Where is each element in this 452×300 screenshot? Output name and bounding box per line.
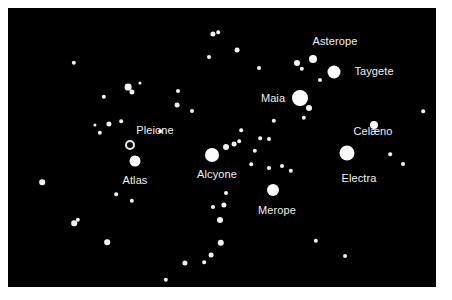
field-star bbox=[104, 239, 110, 245]
star-merope bbox=[267, 184, 279, 196]
field-star bbox=[237, 139, 241, 143]
star-asterope bbox=[309, 55, 317, 63]
sky-field: PleioneAtlasAlcyoneMeropeMaiaTaygeteAste… bbox=[8, 8, 436, 287]
field-star bbox=[211, 205, 215, 209]
field-star bbox=[164, 278, 168, 282]
field-star bbox=[257, 66, 261, 70]
field-star bbox=[302, 116, 306, 120]
field-star bbox=[267, 137, 271, 141]
field-star bbox=[106, 121, 111, 126]
field-star bbox=[190, 109, 194, 113]
star-maia bbox=[292, 90, 308, 106]
star-pleione bbox=[125, 140, 135, 150]
field-star bbox=[258, 136, 262, 140]
field-star bbox=[232, 142, 237, 147]
star-label-atlas: Atlas bbox=[123, 174, 148, 186]
field-star bbox=[388, 152, 392, 156]
field-star bbox=[223, 144, 229, 150]
field-star bbox=[218, 240, 224, 246]
field-star bbox=[102, 95, 106, 99]
field-star bbox=[239, 128, 243, 132]
field-star bbox=[401, 162, 405, 166]
field-star bbox=[207, 55, 211, 59]
field-star bbox=[343, 254, 347, 258]
field-star bbox=[294, 60, 300, 66]
field-star bbox=[235, 48, 240, 53]
star-label-asterope: Asterope bbox=[313, 35, 358, 47]
star-label-taygete: Taygete bbox=[354, 65, 393, 77]
star-alcyone bbox=[205, 148, 219, 162]
field-star bbox=[306, 105, 312, 111]
field-star bbox=[76, 218, 80, 222]
field-star bbox=[300, 67, 304, 71]
field-star bbox=[209, 253, 214, 258]
field-star bbox=[217, 217, 223, 223]
star-atlas bbox=[130, 156, 141, 167]
field-star bbox=[175, 103, 180, 108]
field-star bbox=[318, 78, 322, 82]
field-star bbox=[216, 30, 220, 34]
field-star bbox=[114, 192, 118, 196]
star-chart: PleioneAtlasAlcyoneMeropeMaiaTaygeteAste… bbox=[0, 0, 452, 300]
star-label-alcyone: Alcyone bbox=[197, 168, 237, 180]
star-taygete bbox=[328, 66, 341, 79]
field-star bbox=[224, 191, 228, 195]
star-label-merope: Merope bbox=[258, 204, 296, 216]
star-electra bbox=[340, 146, 355, 161]
field-star bbox=[138, 81, 141, 84]
field-star bbox=[267, 166, 271, 170]
field-star bbox=[39, 179, 45, 185]
field-star bbox=[221, 202, 226, 207]
field-star bbox=[93, 123, 96, 126]
star-label-pleione: Pleione bbox=[136, 124, 173, 136]
field-star bbox=[421, 109, 425, 113]
field-star bbox=[314, 239, 318, 243]
star-label-electra: Electra bbox=[342, 172, 377, 184]
star-label-maia: Maia bbox=[261, 92, 285, 104]
field-star bbox=[98, 131, 102, 135]
field-star bbox=[289, 169, 293, 173]
field-star bbox=[272, 119, 276, 123]
field-star bbox=[182, 260, 187, 265]
field-star bbox=[119, 119, 123, 123]
field-star bbox=[72, 61, 76, 65]
field-star bbox=[129, 89, 134, 94]
field-star bbox=[280, 164, 284, 168]
field-star bbox=[202, 260, 206, 264]
star-label-cel-no: Celæno bbox=[353, 125, 392, 137]
field-star bbox=[176, 89, 180, 93]
field-star bbox=[210, 31, 215, 36]
field-star bbox=[249, 162, 253, 166]
field-star bbox=[130, 199, 134, 203]
field-star bbox=[253, 149, 257, 153]
